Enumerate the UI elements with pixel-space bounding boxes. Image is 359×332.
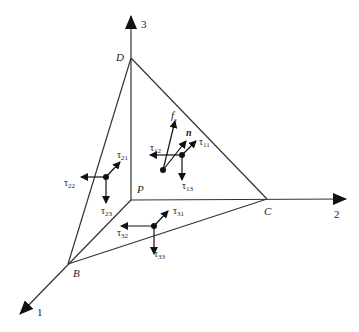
axis-2 — [131, 199, 346, 200]
tau-32-label: τ32 — [117, 227, 129, 240]
face-2-vectors — [81, 162, 120, 203]
face-n-point — [160, 167, 166, 173]
normal-label: n — [186, 127, 192, 138]
tau-23-label: τ23 — [101, 205, 113, 218]
axis-2-label: 2 — [334, 208, 340, 220]
vertex-D-label: D — [115, 51, 124, 63]
tetrahedron-diagram: 3 2 1 D P C B fs n τ11 τ12 τ13 τ21 τ22 τ… — [0, 0, 359, 332]
vertex-C-label: C — [264, 205, 272, 217]
tau-22-label: τ22 — [64, 177, 76, 190]
face-n-stress-point — [179, 152, 185, 158]
tau-33-label: τ33 — [154, 248, 166, 261]
axis-1 — [20, 200, 131, 314]
tau-13-label: τ13 — [182, 180, 194, 193]
vertex-P-label: P — [136, 183, 144, 195]
tau-12-label: τ12 — [150, 142, 162, 155]
face-2-point — [103, 174, 109, 180]
traction-label: fs — [171, 109, 177, 124]
vertex-B-label: B — [73, 267, 80, 279]
face-3-vectors — [121, 211, 168, 254]
axes — [20, 16, 346, 314]
axis-1-label: 1 — [37, 306, 43, 318]
tau-21-label: τ21 — [117, 149, 129, 162]
tau-31-label: τ31 — [173, 205, 185, 218]
axis-3-label: 3 — [141, 18, 147, 30]
tetrahedron-edges — [68, 58, 267, 264]
face-3-point — [151, 223, 157, 229]
